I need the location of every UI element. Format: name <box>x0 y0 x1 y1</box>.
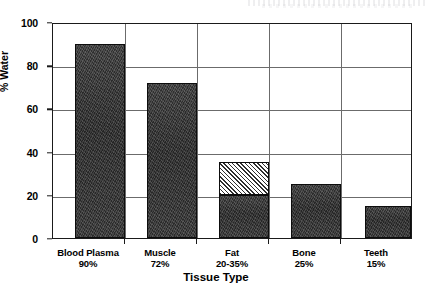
y-tick-label-100: 100 <box>8 17 38 29</box>
x-category-sublabel: 25% <box>268 258 340 269</box>
x-category-sublabel: 90% <box>52 258 124 269</box>
x-category-label: Bone <box>268 247 340 258</box>
x-category-sublabel: 15% <box>340 258 412 269</box>
x-category-fat: Fat 20-35% <box>196 247 268 269</box>
category-separator-4 <box>341 24 342 238</box>
y-tick-label-40: 40 <box>8 147 38 159</box>
bar-fat-range-hatched <box>219 162 269 194</box>
bar-chart: % Water 100 80 60 40 20 0 <box>0 0 432 296</box>
x-category-label: Blood Plasma <box>52 247 124 258</box>
x-category-muscle: Muscle 72% <box>124 247 196 269</box>
x-tick-mark-4 <box>340 239 341 244</box>
x-category-teeth: Teeth 15% <box>340 247 412 269</box>
bar-fat-solid <box>219 195 269 238</box>
x-category-label: Teeth <box>340 247 412 258</box>
x-category-sublabel: 20-35% <box>196 258 268 269</box>
plot-area <box>52 23 412 239</box>
x-category-label: Muscle <box>124 247 196 258</box>
bar-teeth <box>365 206 411 238</box>
category-separator-2 <box>197 24 198 238</box>
x-tick-mark-2 <box>196 239 197 244</box>
x-category-sublabel: 72% <box>124 258 196 269</box>
bar-muscle <box>147 83 197 239</box>
x-tick-mark-1 <box>124 239 125 244</box>
y-tick-label-0: 0 <box>8 233 38 245</box>
category-separator-1 <box>125 24 126 238</box>
x-category-label: Fat <box>196 247 268 258</box>
y-tick-label-80: 80 <box>8 60 38 72</box>
x-category-bone: Bone 25% <box>268 247 340 269</box>
bar-blood-plasma <box>75 44 125 238</box>
scan-artifact-top-secondary <box>262 4 412 8</box>
y-tick-label-20: 20 <box>8 190 38 202</box>
x-tick-mark-3 <box>268 239 269 244</box>
x-category-blood-plasma: Blood Plasma 90% <box>52 247 124 269</box>
category-separator-3 <box>269 24 270 238</box>
y-tick-label-60: 60 <box>8 103 38 115</box>
bar-bone <box>291 184 341 238</box>
x-axis-title: Tissue Type <box>0 271 432 283</box>
